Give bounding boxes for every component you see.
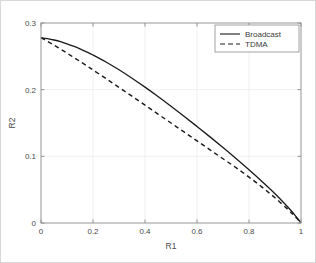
y-tick-label: 0.2: [25, 86, 37, 95]
legend: Broadcast TDMA: [215, 25, 299, 52]
chart-canvas: 00.20.40.60.81 00.10.20.3 R1 R2 Broadcas…: [1, 1, 316, 263]
y-tick-label: 0: [32, 219, 37, 228]
y-axis-tick-labels: 00.10.20.3: [25, 19, 37, 228]
x-axis-tick-labels: 00.20.40.60.81: [39, 227, 304, 236]
y-tick-label: 0.1: [25, 152, 37, 161]
legend-label-broadcast: Broadcast: [245, 30, 282, 39]
y-tick-label: 0.3: [25, 19, 37, 28]
x-tick-label: 0.8: [243, 227, 255, 236]
legend-label-tdma: TDMA: [245, 40, 268, 49]
x-tick-label: 0.4: [139, 227, 151, 236]
y-axis-title: R2: [7, 117, 17, 128]
x-axis-title: R1: [166, 241, 177, 251]
x-tick-label: 0: [39, 227, 44, 236]
x-tick-label: 1: [299, 227, 304, 236]
figure-container: 00.20.40.60.81 00.10.20.3 R1 R2 Broadcas…: [0, 0, 316, 263]
x-tick-label: 0.6: [191, 227, 203, 236]
x-tick-label: 0.2: [87, 227, 99, 236]
